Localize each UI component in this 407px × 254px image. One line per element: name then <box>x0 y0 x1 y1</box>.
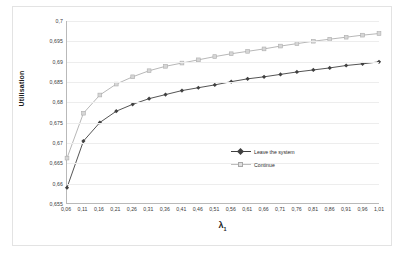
data-point-marker-diamond <box>246 77 250 81</box>
data-point-marker-square <box>229 52 233 56</box>
data-point-marker-square <box>147 69 151 73</box>
legend-label: Leave the system <box>254 149 295 155</box>
y-axis-tick-label: 0,695 <box>17 38 63 44</box>
gridline <box>67 82 379 83</box>
x-axis-title: λ1 <box>66 220 379 232</box>
data-point-marker-diamond <box>262 75 266 79</box>
x-axis-tick-label: 1,01 <box>364 206 394 212</box>
gridline <box>67 123 379 124</box>
legend-item-continue[interactable]: Continue <box>231 158 351 171</box>
legend-item-leave-the-system[interactable]: Leave the system <box>231 145 351 158</box>
data-point-marker-square <box>361 33 365 37</box>
data-point-marker-diamond <box>295 70 299 74</box>
y-axis-tick-label: 0,66 <box>17 181 63 187</box>
data-point-marker-square <box>82 111 86 115</box>
chart-legend: Leave the system Continue <box>231 145 351 171</box>
data-point-marker-square <box>65 156 69 160</box>
y-axis-tick-label: 0,67 <box>17 140 63 146</box>
data-point-marker-diamond <box>213 83 217 87</box>
y-axis-tick-label: 0,665 <box>17 160 63 166</box>
data-point-marker-diamond <box>344 63 348 67</box>
data-point-marker-diamond <box>196 86 200 90</box>
gridline <box>67 41 379 42</box>
data-point-marker-square <box>246 49 250 53</box>
data-point-marker-diamond <box>65 186 69 190</box>
data-point-marker-diamond <box>278 72 282 76</box>
legend-label: Continue <box>254 162 275 168</box>
data-point-marker-square <box>164 64 168 68</box>
y-axis-tick-label: 0,675 <box>17 120 63 126</box>
gridline <box>67 143 379 144</box>
chart-container: Utilisation 0,70,6950,690,6850,680,6750,… <box>12 6 392 246</box>
y-axis-tick-label: 0,69 <box>17 59 63 65</box>
data-point-marker-square <box>377 32 381 36</box>
x-axis-tick-labels: 0,060,110,160,210,260,310,360,410,460,51… <box>66 206 379 218</box>
data-point-marker-diamond <box>311 68 315 72</box>
data-point-marker-square <box>262 47 266 51</box>
data-point-marker-diamond <box>163 93 167 97</box>
gridline <box>67 62 379 63</box>
data-point-marker-square <box>213 55 217 59</box>
data-point-marker-square <box>98 93 102 97</box>
data-point-marker-square <box>279 44 283 48</box>
data-point-marker-square <box>131 75 135 79</box>
series-layer <box>67 21 379 203</box>
series-line <box>67 34 379 159</box>
data-point-marker-diamond <box>147 97 151 101</box>
gridline <box>67 102 379 103</box>
y-axis-tick-label: 0,7 <box>17 18 63 24</box>
y-axis-tick-labels: 0,70,6950,690,6850,680,6750,670,6650,660… <box>13 21 63 204</box>
gridline <box>67 21 379 22</box>
data-point-marker-diamond <box>180 88 184 92</box>
y-axis-tick-label: 0,685 <box>17 79 63 85</box>
legend-marker-square-icon <box>231 160 251 169</box>
gridline <box>67 184 379 185</box>
y-axis-tick-label: 0,68 <box>17 99 63 105</box>
plot-area <box>66 21 379 204</box>
data-point-marker-diamond <box>328 66 332 70</box>
legend-marker-diamond-icon <box>231 147 251 156</box>
data-point-marker-square <box>344 35 348 39</box>
